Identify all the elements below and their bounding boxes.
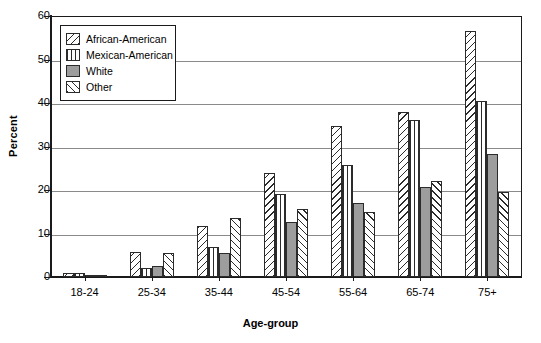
x-axis-tick-mark [219, 276, 220, 281]
x-axis-tick-mark [487, 276, 488, 281]
legend-swatch-4 [66, 81, 80, 93]
legend-item: Mexican-American [66, 47, 169, 63]
y-axis-tick-mark [44, 277, 51, 278]
legend-label: Mexican-American [86, 49, 173, 61]
y-axis-tick-mark [44, 16, 51, 17]
bar [431, 181, 442, 277]
bar [498, 192, 509, 277]
y-axis-tick-mark [44, 147, 51, 148]
bar-group [465, 16, 509, 277]
bar [364, 212, 375, 277]
bar [286, 222, 297, 277]
y-axis-tick-mark [44, 60, 51, 61]
y-axis-tick-mark [44, 234, 51, 235]
bar-chart: 0102030405060 Percent 18-2425-3435-4445-… [0, 0, 541, 343]
bar [130, 252, 141, 277]
bar [409, 120, 420, 277]
bar [465, 31, 476, 277]
bar [476, 101, 487, 277]
bar [264, 173, 275, 277]
legend-item: African-American [66, 31, 169, 47]
bar-group [398, 16, 442, 277]
x-axis-title: Age-group [0, 317, 541, 329]
bar [331, 126, 342, 277]
bar [219, 253, 230, 277]
legend-swatch-3 [66, 65, 80, 77]
x-axis-tick-label: 35-44 [185, 286, 252, 298]
x-axis-tick-mark [152, 276, 153, 281]
legend-label: African-American [86, 33, 167, 45]
x-axis-tick-label: 45-54 [252, 286, 319, 298]
y-axis-tick-mark [44, 190, 51, 191]
y-axis-tick-labels: 0102030405060 [12, 0, 50, 343]
x-axis-tick-label: 25-34 [118, 286, 185, 298]
y-axis-title: Percent [7, 101, 19, 171]
legend-label: Other [86, 81, 112, 93]
bar [275, 194, 286, 277]
bar [487, 154, 498, 277]
x-axis-tick-label: 75+ [454, 286, 521, 298]
x-axis-tick-label: 65-74 [387, 286, 454, 298]
x-axis-tick-label: 55-64 [320, 286, 387, 298]
bar-group [197, 16, 241, 277]
legend-item: White [66, 63, 169, 79]
x-axis-tick-mark [85, 276, 86, 281]
bar [163, 253, 174, 277]
bar [197, 226, 208, 277]
bar [342, 165, 353, 277]
y-axis-tick-mark [44, 103, 51, 104]
bar [208, 247, 219, 277]
bar-group [264, 16, 308, 277]
legend-swatch-1 [66, 33, 80, 45]
x-axis-tick-mark [353, 276, 354, 281]
legend-item: Other [66, 79, 169, 95]
bar-group [331, 16, 375, 277]
x-axis-tick-marks [51, 276, 521, 286]
bar [398, 112, 409, 277]
legend-label: White [86, 65, 113, 77]
legend-swatch-2 [66, 49, 80, 61]
x-axis-tick-labels: 18-2425-3435-4445-5455-6465-7475+ [51, 286, 521, 302]
legend: African-AmericanMexican-AmericanWhiteOth… [60, 25, 176, 101]
x-axis-tick-label: 18-24 [51, 286, 118, 298]
bar [353, 203, 364, 277]
bar [297, 209, 308, 277]
x-axis-tick-mark [286, 276, 287, 281]
bar [230, 218, 241, 277]
bar [420, 187, 431, 277]
x-axis-tick-mark [420, 276, 421, 281]
